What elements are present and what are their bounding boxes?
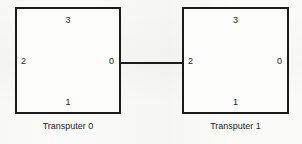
transputer-1-port-top: 3 [233,15,238,25]
transputer-0-port-right: 0 [109,56,114,66]
transputer-1-port-left: 2 [188,56,193,66]
transputer-link-diagram: 3 0 1 2 3 0 1 2 Transputer 0 Transputer … [0,0,302,144]
transputer-0-port-left: 2 [21,56,26,66]
transputer-0-port-top: 3 [65,15,70,25]
link-connector-line [121,62,182,64]
transputer-1-caption: Transputer 1 [182,121,289,132]
transputer-0-node: 3 0 1 2 [15,7,121,114]
transputer-1-port-bottom: 1 [233,97,238,107]
transputer-0-port-bottom: 1 [65,97,70,107]
transputer-1-port-right: 0 [277,56,282,66]
transputer-0-caption: Transputer 0 [15,121,121,132]
transputer-1-node: 3 0 1 2 [182,7,289,114]
